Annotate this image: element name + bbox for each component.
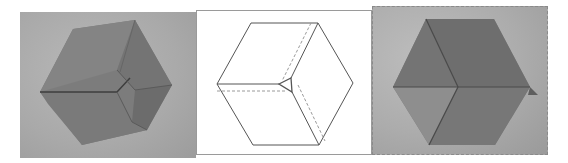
origami-photo-right — [372, 6, 548, 155]
hexagon-model-left — [20, 12, 196, 158]
origami-photo-left — [20, 12, 196, 158]
center-triangle — [279, 78, 292, 92]
hexagon-model-right — [373, 7, 549, 156]
hexagon-cube-diagram — [197, 11, 373, 156]
fold-diagram — [196, 10, 372, 155]
